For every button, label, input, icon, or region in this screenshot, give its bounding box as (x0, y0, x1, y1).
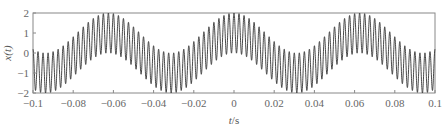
y-tick-label: 0 (24, 47, 30, 59)
x-tick-label: −0.04 (141, 97, 167, 109)
y-tick-label: 1 (24, 27, 30, 39)
chart: −0.1−0.08−0.06−0.04−0.0200.020.040.060.0… (0, 0, 446, 127)
x-tick-label: 0.02 (265, 97, 284, 109)
x-tick-label: 0.06 (345, 97, 365, 109)
x-tick-label: −0.06 (101, 97, 127, 109)
x-tick-label: 0.04 (305, 97, 325, 109)
plot-area (33, 13, 435, 93)
x-tick-label: −0.02 (181, 97, 206, 109)
plot-frame (33, 13, 435, 93)
y-tick-label: −1 (17, 67, 29, 79)
y-axis-label: x(t) (1, 45, 14, 62)
x-axis-label: t/s (229, 114, 239, 126)
x-tick-label: 0.1 (428, 97, 442, 109)
x-tick-label: 0.08 (385, 97, 405, 109)
x-tick-label: −0.08 (60, 97, 86, 109)
signal-line (33, 13, 435, 93)
y-tick-label: −2 (17, 87, 29, 99)
y-tick-label: 2 (24, 7, 30, 19)
x-tick-label: 0 (231, 97, 237, 109)
